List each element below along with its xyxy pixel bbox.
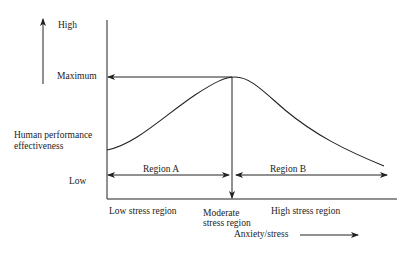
moderate-line2: stress region xyxy=(203,218,251,229)
low-stress-label: Low stress region xyxy=(109,206,177,217)
xlabel: Anxiety/stress xyxy=(234,229,288,240)
performance-curve xyxy=(107,77,384,166)
maximum-label: Maximum xyxy=(57,71,97,82)
low-label: Low xyxy=(69,176,86,187)
ylabel-line1: Human performance xyxy=(14,130,92,141)
high-stress-label: High stress region xyxy=(271,206,340,217)
region-b-label: Region B xyxy=(270,164,306,175)
ylabel-line2: effectiveness xyxy=(14,141,63,152)
region-a-label: Region A xyxy=(143,164,179,175)
high-label: High xyxy=(58,20,77,31)
